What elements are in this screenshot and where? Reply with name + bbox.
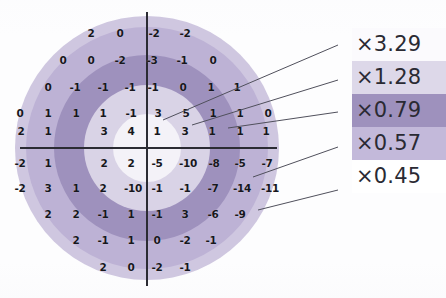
grid-value: 1 bbox=[236, 125, 243, 137]
grid-value: -1 bbox=[147, 81, 158, 93]
grid-value: 1 bbox=[236, 107, 243, 119]
grid-value: 5 bbox=[182, 107, 189, 119]
grid-value: -1 bbox=[151, 182, 162, 194]
grid-value: -2 bbox=[148, 27, 159, 39]
grid-value: -8 bbox=[208, 157, 219, 169]
grid-value: 2 bbox=[17, 125, 24, 137]
grid-value: -5 bbox=[234, 157, 245, 169]
grid-value: 3 bbox=[154, 107, 161, 119]
grid-value: -1 bbox=[69, 81, 80, 93]
legend-label-3-29: ×3.29 bbox=[356, 34, 421, 55]
grid-value: 2 bbox=[44, 208, 51, 220]
grid-value: 0 bbox=[153, 234, 160, 246]
grid-value: -2 bbox=[114, 54, 125, 66]
grid-value: 1 bbox=[44, 125, 51, 137]
grid-value: 3 bbox=[100, 125, 107, 137]
grid-value: -2 bbox=[179, 27, 190, 39]
legend-label-0-57: ×0.57 bbox=[356, 133, 421, 154]
grid-value: 1 bbox=[233, 81, 240, 93]
grid-value: -2 bbox=[179, 234, 190, 246]
grid-value: 1 bbox=[153, 125, 160, 137]
grid-value: -1 bbox=[179, 182, 190, 194]
grid-value: -1 bbox=[97, 81, 108, 93]
grid-value: -1 bbox=[97, 234, 108, 246]
grid-value: 0 bbox=[59, 54, 66, 66]
grid-value: 0 bbox=[16, 107, 23, 119]
grid-value: 4 bbox=[127, 125, 134, 137]
figure-canvas: 20-2-200-2-3-100-1-1-1-10110111-13511021… bbox=[0, 0, 446, 298]
grid-value: 1 bbox=[207, 81, 214, 93]
grid-value: 2 bbox=[127, 157, 134, 169]
legend-swatch-3-29[interactable]: ×3.29 bbox=[352, 28, 446, 61]
grid-value: 1 bbox=[127, 208, 134, 220]
grid-value: -1 bbox=[205, 234, 216, 246]
grid-value: 0 bbox=[87, 54, 94, 66]
grid-value: 0 bbox=[44, 81, 51, 93]
legend-label-1-28: ×1.28 bbox=[356, 67, 421, 88]
grid-value: -14 bbox=[233, 182, 251, 194]
grid-value: -7 bbox=[261, 157, 272, 169]
grid-value: 2 bbox=[87, 27, 94, 39]
grid-value: 1 bbox=[127, 234, 134, 246]
legend-swatch-0-45[interactable]: ×0.45 bbox=[352, 160, 446, 193]
grid-value: -1 bbox=[151, 208, 162, 220]
grid-value: -5 bbox=[151, 157, 162, 169]
grid-value: -1 bbox=[125, 107, 136, 119]
grid-value: 1 bbox=[209, 107, 216, 119]
legend-swatch-1-28[interactable]: ×1.28 bbox=[352, 61, 446, 94]
grid-value: 2 bbox=[99, 261, 106, 273]
grid-value: -1 bbox=[179, 261, 190, 273]
grid-value: 0 bbox=[209, 54, 216, 66]
grid-value: 2 bbox=[99, 182, 106, 194]
grid-value: -3 bbox=[146, 54, 157, 66]
grid-value: 1 bbox=[262, 125, 269, 137]
grid-value: 3 bbox=[181, 208, 188, 220]
grid-value: 0 bbox=[179, 81, 186, 93]
grid-value: -2 bbox=[151, 261, 162, 273]
legend-swatch-0-79[interactable]: ×0.79 bbox=[352, 94, 446, 127]
grid-value: -10 bbox=[179, 157, 197, 169]
grid-value: 1 bbox=[72, 107, 79, 119]
grid-value: -10 bbox=[124, 182, 142, 194]
grid-value: -11 bbox=[261, 182, 279, 194]
grid-value: -1 bbox=[124, 81, 135, 93]
grid-value: 0 bbox=[264, 107, 271, 119]
grid-value: 2 bbox=[72, 234, 79, 246]
legend-label-0-45: ×0.45 bbox=[356, 166, 421, 187]
grid-value: 2 bbox=[72, 208, 79, 220]
horizontal-axis bbox=[20, 147, 277, 149]
grid-value: 0 bbox=[116, 27, 123, 39]
grid-value: 0 bbox=[127, 261, 134, 273]
grid-value: -1 bbox=[97, 208, 108, 220]
legend-swatch-0-57[interactable]: ×0.57 bbox=[352, 127, 446, 160]
grid-value: 1 bbox=[44, 107, 51, 119]
legend-label-0-79: ×0.79 bbox=[356, 100, 421, 121]
grid-value: -7 bbox=[207, 182, 218, 194]
grid-value: 1 bbox=[99, 107, 106, 119]
grid-value: -9 bbox=[234, 208, 245, 220]
grid-value: 1 bbox=[208, 125, 215, 137]
grid-value: -2 bbox=[14, 157, 25, 169]
grid-value: 3 bbox=[44, 182, 51, 194]
grid-value: -2 bbox=[14, 182, 25, 194]
grid-value: -6 bbox=[207, 208, 218, 220]
grid-value: 3 bbox=[181, 125, 188, 137]
grid-value: 2 bbox=[100, 157, 107, 169]
grid-value: 1 bbox=[44, 157, 51, 169]
grid-value: 1 bbox=[72, 182, 79, 194]
grid-value: -1 bbox=[176, 54, 187, 66]
legend: ×3.29 ×1.28 ×0.79 ×0.57 ×0.45 bbox=[352, 28, 446, 193]
